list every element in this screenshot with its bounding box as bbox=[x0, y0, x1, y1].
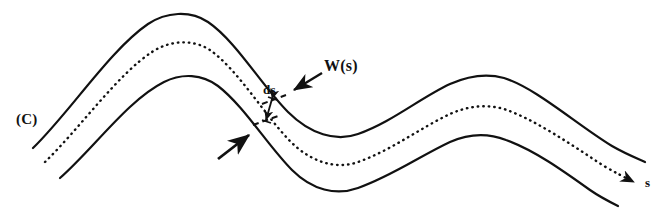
width-label-ws: W(s) bbox=[324, 58, 358, 74]
arclength-axis-label-s: s bbox=[645, 176, 650, 189]
arc-element-label-ds: ds bbox=[263, 83, 276, 96]
inner-edge-arrow bbox=[218, 135, 249, 159]
outer-upper-curve bbox=[33, 14, 645, 162]
width-arrow bbox=[294, 73, 322, 90]
diagram-canvas bbox=[0, 0, 668, 216]
curve-label-c: (C) bbox=[16, 112, 37, 127]
inner-lower-curve bbox=[60, 76, 618, 206]
figure-container: (C) W(s) ds s bbox=[0, 0, 668, 216]
